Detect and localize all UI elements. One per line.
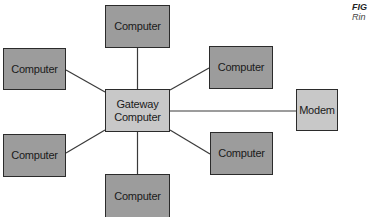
edge-gateway-left-bottom — [66, 130, 105, 153]
node-label: Computer — [218, 147, 265, 160]
computer-node-top: Computer — [105, 5, 170, 48]
gateway-computer-node: Gateway Computer — [105, 89, 170, 132]
figure-caption: FIG Rin — [352, 2, 367, 22]
computer-node-right-bottom: Computer — [210, 132, 273, 175]
node-label: Computer — [11, 63, 58, 76]
edge-gateway-left-top — [66, 70, 105, 92]
edge-gateway-right-top — [170, 68, 209, 90]
node-label: Computer — [218, 61, 265, 74]
hub-label-line2: Computer — [114, 111, 161, 124]
node-label: Computer — [114, 190, 161, 203]
node-label: Modem — [299, 104, 335, 117]
node-label: Computer — [11, 149, 58, 162]
computer-node-left-top: Computer — [3, 48, 66, 90]
node-label: Computer — [114, 20, 161, 33]
computer-node-right-top: Computer — [209, 46, 273, 89]
figure-title: Rin — [352, 12, 367, 22]
edge-gateway-right-bottom — [170, 130, 210, 154]
network-diagram: Computer Computer Computer Gateway Compu… — [0, 0, 370, 217]
modem-node: Modem — [296, 89, 338, 131]
hub-label-line1: Gateway — [116, 98, 158, 111]
computer-node-bottom: Computer — [105, 174, 170, 217]
figure-number: FIG — [352, 2, 367, 12]
computer-node-left-bottom: Computer — [3, 134, 66, 177]
